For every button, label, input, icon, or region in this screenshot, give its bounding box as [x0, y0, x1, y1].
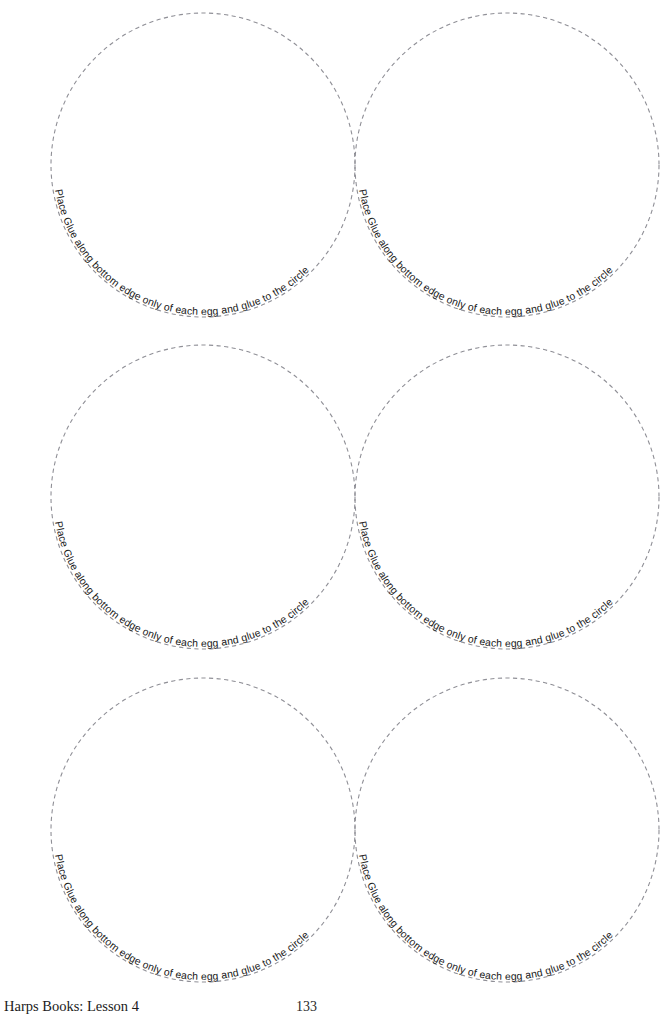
page-footer: Harps Books: Lesson 4 133	[0, 993, 660, 1015]
footer-source-label: Harps Books: Lesson 4	[4, 998, 139, 1015]
circle-instruction-text: Place Glue along bottom edge only of eac…	[53, 853, 311, 982]
egg-circle-3: Place Glue along bottom edge only of eac…	[35, 329, 371, 665]
circle-instruction-text: Place Glue along bottom edge only of eac…	[357, 520, 615, 649]
text-baseline-arc	[54, 518, 351, 647]
text-baseline-arc	[358, 518, 655, 647]
egg-circle-4: Place Glue along bottom edge only of eac…	[339, 329, 660, 665]
worksheet-page: Place Glue along bottom edge only of eac…	[0, 0, 660, 1015]
circle-instruction-text: Place Glue along bottom edge only of eac…	[53, 520, 311, 649]
egg-circle-2: Place Glue along bottom edge only of eac…	[339, 0, 660, 333]
egg-circle-5: Place Glue along bottom edge only of eac…	[35, 662, 371, 998]
circle-instruction-text: Place Glue along bottom edge only of eac…	[53, 188, 311, 317]
egg-circle-6: Place Glue along bottom edge only of eac…	[339, 662, 660, 998]
circle-instruction-text: Place Glue along bottom edge only of eac…	[357, 853, 615, 982]
footer-page-number: 133	[296, 999, 317, 1015]
text-baseline-arc	[54, 851, 351, 980]
text-baseline-arc	[358, 851, 655, 980]
text-baseline-arc	[358, 186, 655, 315]
egg-circle-1: Place Glue along bottom edge only of eac…	[35, 0, 371, 333]
text-baseline-arc	[54, 186, 351, 315]
circle-instruction-text: Place Glue along bottom edge only of eac…	[357, 188, 615, 317]
